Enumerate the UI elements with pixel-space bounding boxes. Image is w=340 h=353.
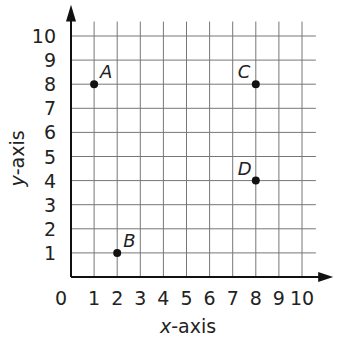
x-tick-label: 3 [134, 287, 146, 309]
x-tick-label: 8 [250, 287, 262, 309]
y-axis-title: y-axis [6, 130, 28, 187]
data-point-b [113, 249, 121, 257]
y-tick-label: 1 [44, 242, 56, 264]
y-tick-label: 10 [32, 25, 56, 47]
data-point-a [90, 80, 98, 88]
x-tick-label: 7 [227, 287, 239, 309]
y-tick-label: 4 [44, 170, 56, 192]
y-axis-arrow-icon [66, 5, 76, 22]
data-point-d [252, 177, 260, 185]
x-axis-title: x-axis [159, 315, 216, 337]
x-tick-label: 10 [290, 287, 314, 309]
x-tick-label: 0 [55, 287, 67, 309]
y-tick-label: 9 [44, 49, 56, 71]
y-tick-label: 7 [44, 97, 56, 119]
y-tick-label: 2 [44, 218, 56, 240]
x-tick-label: 2 [111, 287, 123, 309]
point-label-d: D [238, 158, 252, 179]
y-tick-label: 5 [44, 146, 56, 168]
y-tick-label: 6 [44, 121, 56, 143]
data-point-c [252, 80, 260, 88]
x-axis-arrow-icon [318, 272, 333, 282]
coordinate-plane: 01234567891012345678910x-axisy-axisABCD [0, 0, 340, 353]
x-tick-label: 4 [157, 287, 169, 309]
point-label-a: A [99, 61, 112, 82]
point-label-c: C [238, 61, 251, 82]
x-tick-label: 1 [88, 287, 100, 309]
point-label-b: B [123, 230, 135, 251]
x-tick-label: 9 [273, 287, 285, 309]
y-tick-label: 8 [44, 73, 56, 95]
y-tick-label: 3 [44, 194, 56, 216]
x-tick-label: 5 [180, 287, 192, 309]
x-tick-label: 6 [204, 287, 216, 309]
chart-svg: 01234567891012345678910x-axisy-axisABCD [0, 0, 340, 353]
